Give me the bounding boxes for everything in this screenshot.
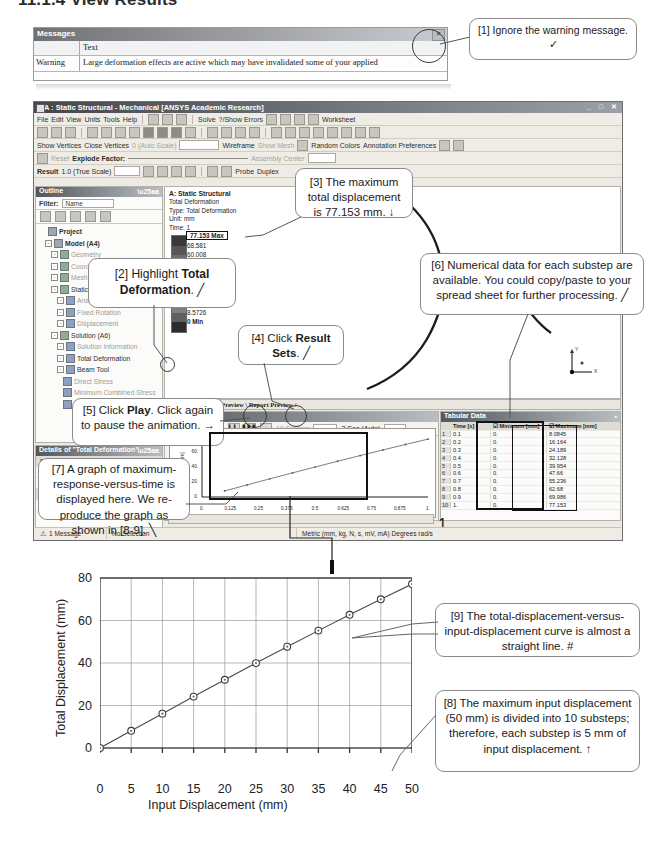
tree-item-model-a4[interactable]: -Model (A4) (39, 238, 162, 250)
menu-tools[interactable]: Tools (103, 116, 119, 123)
rotate-icon[interactable] (207, 127, 218, 138)
viewport-tab-bar[interactable]: \ Geometry \ Print Preview \ Report Prev… (164, 399, 621, 410)
window-controls[interactable]: _ □ ✕ (587, 103, 620, 111)
assembly-center-dropdown[interactable] (308, 153, 336, 163)
graphics-options-icon[interactable] (369, 127, 380, 138)
tree-item-total-deformation[interactable]: -Total Deformation (39, 353, 162, 365)
section-plane-icon[interactable] (355, 127, 366, 138)
probe-icon[interactable] (308, 114, 319, 125)
annotation-icon[interactable] (439, 140, 450, 151)
vector-icon[interactable] (171, 166, 182, 177)
reset-button[interactable]: Reset (51, 155, 69, 162)
magnifier-alt-icon[interactable] (313, 127, 324, 138)
tree-item-beam-tool[interactable]: -Beam Tool (39, 364, 162, 376)
auto-scale-value[interactable]: 0 (Auto Scale) (132, 142, 176, 149)
tree-expander[interactable]: - (51, 332, 58, 339)
tree-expander[interactable]: - (57, 297, 64, 304)
annotation-preferences-button[interactable]: Annotation Preferences (363, 142, 436, 149)
table-row[interactable]: Warning Large deformation effects are ac… (34, 56, 447, 72)
contour-icon[interactable] (143, 166, 154, 177)
probe-alt-icon[interactable] (221, 166, 232, 177)
tree-item-solution-a6[interactable]: -Solution (A6) (39, 330, 162, 342)
vertex-icon[interactable] (65, 127, 76, 138)
image-icon[interactable] (280, 114, 291, 125)
pin-icon[interactable]: ▪ (615, 413, 617, 420)
report-icon[interactable] (266, 114, 277, 125)
tree-expander[interactable]: - (57, 343, 64, 350)
result-scale-dropdown[interactable] (114, 166, 140, 176)
explode-toolbar[interactable]: Reset Explode Factor: Assembly Center (34, 152, 622, 165)
result-scale-value[interactable]: 1.0 (True Scale) (61, 168, 111, 175)
tree-expander[interactable]: - (51, 274, 58, 281)
outline-tree[interactable]: Project-Model (A4)-Geometry-Coordinate S… (36, 224, 162, 410)
edges-icon[interactable] (157, 166, 168, 177)
expand-icon[interactable] (55, 211, 66, 222)
duplex-button[interactable]: Duplex (257, 168, 279, 175)
show-vertices-button[interactable]: Show Vertices (37, 142, 81, 149)
menu-units[interactable]: Units (84, 116, 100, 123)
outline-toolbar[interactable] (36, 210, 162, 224)
add-icon[interactable] (85, 211, 96, 222)
cursor-icon[interactable] (51, 127, 62, 138)
pin-icon[interactable]: \u25aa (137, 447, 159, 454)
face-select-icon[interactable] (101, 127, 112, 138)
filter-select[interactable]: Name (62, 199, 114, 208)
wireframe-button[interactable]: Wireframe (222, 142, 254, 149)
explode-factor-slider[interactable] (128, 158, 248, 159)
edge-color-icon[interactable] (297, 140, 308, 151)
worksheet-button[interactable]: Worksheet (322, 116, 355, 123)
magnifier-icon[interactable] (299, 127, 310, 138)
body-select-icon[interactable] (87, 127, 98, 138)
scale-dropdown[interactable] (179, 140, 219, 150)
graphics-toolbar[interactable] (34, 126, 622, 139)
tree-item-displacement[interactable]: -Displacement (39, 318, 162, 330)
close-vertices-button[interactable]: Close Vertices (84, 142, 129, 149)
max-min-icon[interactable] (185, 166, 196, 177)
select-icon[interactable] (37, 127, 48, 138)
box-zoom-icon[interactable] (271, 127, 282, 138)
tree-item-direct-stress[interactable]: Direct Stress (39, 376, 162, 388)
pin-icon[interactable]: \u25aa (137, 188, 159, 195)
collapse-icon[interactable] (70, 211, 81, 222)
tree-expander[interactable]: - (57, 366, 64, 373)
solve-button[interactable]: Solve (198, 116, 216, 123)
zoom-to-fit-icon[interactable] (285, 127, 296, 138)
outline-filter-row[interactable]: Filter: Name (36, 197, 162, 210)
new-folder-icon[interactable] (40, 211, 51, 222)
pan-icon[interactable] (221, 127, 232, 138)
menu-bar[interactable]: File Edit View Units Tools Help Solve ?/… (34, 113, 622, 126)
tree-expander[interactable]: - (51, 251, 58, 258)
menu-help[interactable]: Help (123, 116, 137, 123)
iso-view-icon[interactable] (327, 127, 338, 138)
label-icon[interactable] (453, 140, 464, 151)
look-at-icon[interactable] (341, 127, 352, 138)
probe-button[interactable]: Probe (235, 168, 254, 175)
new-icon[interactable] (148, 114, 159, 125)
tree-item-minimum-combined-stress[interactable]: Minimum Combined Stress (39, 387, 162, 399)
tree-item-fixed-rotation[interactable]: -Fixed Rotation (39, 307, 162, 319)
tree-expander[interactable]: - (45, 240, 52, 247)
show-errors-button[interactable]: ?/Show Errors (219, 116, 263, 123)
named-select-icon[interactable] (171, 127, 182, 138)
tree-expander[interactable]: - (57, 309, 64, 316)
tree-expander[interactable]: - (51, 286, 58, 293)
edge-select-icon[interactable] (115, 127, 126, 138)
tree-expander[interactable]: - (51, 263, 58, 270)
menu-edit[interactable]: Edit (51, 116, 63, 123)
search-icon[interactable] (100, 211, 111, 222)
point-select-icon[interactable] (129, 127, 140, 138)
tree-item-solution-information[interactable]: -Solution Information (39, 341, 162, 353)
tree-expander[interactable]: - (57, 355, 64, 362)
tabular-column-header[interactable]: ☑ Maximum [mm] (547, 423, 620, 429)
print-icon[interactable] (185, 127, 196, 138)
refresh-icon[interactable] (162, 114, 173, 125)
box-select-icon[interactable] (143, 127, 154, 138)
outline-icon[interactable] (176, 114, 187, 125)
extend-select-icon[interactable] (157, 127, 168, 138)
show-mesh-button[interactable]: Show Mesh (258, 142, 295, 149)
tree-item-project[interactable]: Project (39, 226, 162, 238)
display-toolbar[interactable]: Show Vertices Close Vertices 0 (Auto Sca… (34, 139, 622, 152)
menu-view[interactable]: View (66, 116, 81, 123)
assembly-icon[interactable] (37, 153, 48, 164)
tree-expander[interactable]: - (57, 320, 64, 327)
